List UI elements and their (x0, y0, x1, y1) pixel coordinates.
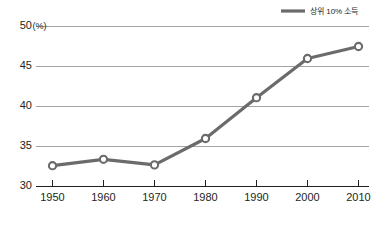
line-chart: 50 (%) 45 40 35 30 1950 1960 1970 1980 1… (0, 0, 376, 226)
x-tick-label-1980: 1980 (193, 191, 217, 203)
chart-container: 50 (%) 45 40 35 30 1950 1960 1970 1980 1… (0, 0, 376, 226)
y-tick-label-35: 35 (20, 139, 32, 151)
gridlines (36, 27, 369, 147)
data-point-1960 (100, 156, 107, 163)
data-point-1970 (151, 161, 158, 168)
series-top-10-income (49, 43, 362, 169)
x-tick-label-1990: 1990 (244, 191, 268, 203)
y-axis-labels: 50 (%) 45 40 35 30 (20, 19, 47, 191)
x-tick-label-1950: 1950 (40, 191, 64, 203)
x-tick-label-1970: 1970 (142, 191, 166, 203)
x-tick-label-2010: 2010 (346, 191, 370, 203)
data-point-1980 (202, 135, 209, 142)
legend-label-top-10-income: 상위 10% 소득 (310, 6, 358, 16)
data-point-1990 (253, 94, 260, 101)
y-tick-label-50: 50 (20, 19, 32, 31)
x-axis-labels: 1950 1960 1970 1980 1990 2000 2010 (40, 191, 370, 203)
x-tick-label-2000: 2000 (295, 191, 319, 203)
legend: 상위 10% 소득 (281, 6, 358, 16)
y-tick-label-40: 40 (20, 99, 32, 111)
data-point-2000 (304, 55, 311, 62)
y-tick-label-30: 30 (20, 179, 32, 191)
x-tick-marks (53, 180, 359, 187)
series-markers (49, 43, 362, 169)
y-axis-unit-label: (%) (33, 21, 47, 31)
y-tick-label-45: 45 (20, 59, 32, 71)
data-point-1950 (49, 162, 56, 169)
data-point-2010 (355, 43, 362, 50)
x-tick-label-1960: 1960 (91, 191, 115, 203)
